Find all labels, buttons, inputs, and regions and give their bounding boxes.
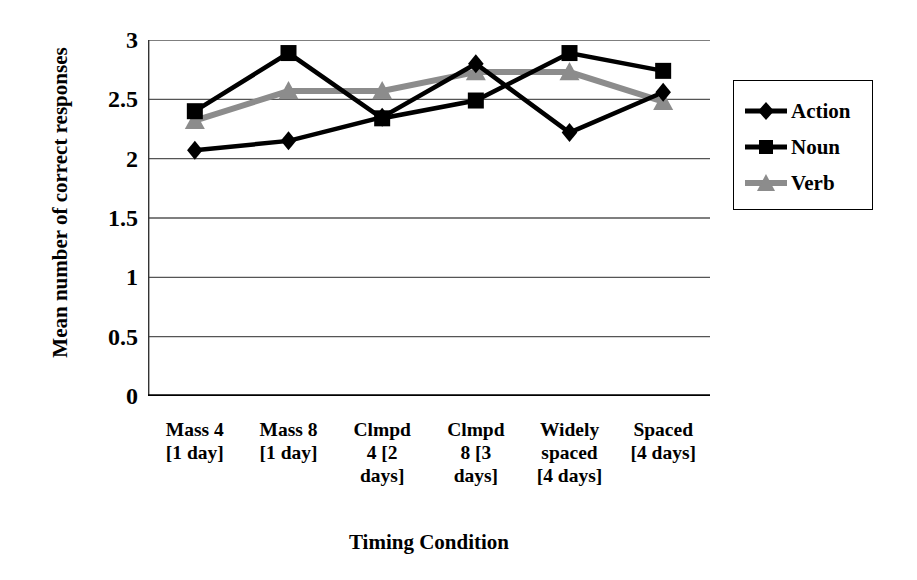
x-axis-tick-label-line: 8 [3 [431, 441, 521, 464]
x-axis-tick-label: Clmpd8 [3days] [429, 418, 523, 518]
diamond-marker-icon [281, 131, 297, 150]
y-axis-tick-label: 0.5 [68, 325, 138, 349]
square-marker-icon [187, 103, 203, 119]
diamond-marker-icon [187, 141, 203, 160]
x-axis-tick-label-line: Mass 4 [150, 418, 240, 441]
x-axis-tick-label-line: Mass 8 [244, 418, 334, 441]
square-marker-icon [468, 93, 484, 109]
legend-label: Verb [791, 171, 835, 196]
x-axis-tick-labels: Mass 4[1 day]Mass 8[1 day]Clmpd4 [2days]… [148, 418, 710, 518]
square-marker-icon [744, 136, 788, 158]
x-axis-title: Timing Condition [148, 530, 710, 555]
y-axis-tick-labels: 32.521.510.50 [62, 0, 138, 580]
x-axis-tick-label-line: 4 [2 [337, 441, 427, 464]
x-axis-tick-label-line: days] [431, 464, 521, 487]
diamond-marker-icon [744, 100, 788, 122]
y-axis-tick-label: 0 [68, 384, 138, 408]
series-line [195, 72, 663, 121]
x-axis-tick-label-line: Widely [525, 418, 615, 441]
x-axis-tick-label: Mass 8[1 day] [242, 418, 336, 518]
y-axis-tick-label: 3 [68, 28, 138, 52]
x-axis-tick-label-line: Clmpd [337, 418, 427, 441]
x-axis-tick-label-line: Spaced [618, 418, 708, 441]
square-marker-icon [562, 45, 578, 61]
x-axis-tick-label: Widelyspaced[4 days] [523, 418, 617, 518]
y-axis-tick-label: 1 [68, 265, 138, 289]
legend-item-noun[interactable]: Noun [744, 129, 872, 165]
chart-figure: Mean number of correct responses 32.521.… [0, 0, 917, 580]
legend-item-action[interactable]: Action [744, 93, 872, 129]
square-marker-icon [281, 45, 297, 61]
y-axis-tick-label: 1.5 [68, 206, 138, 230]
x-axis-tick-label-line: Clmpd [431, 418, 521, 441]
series-noun [187, 45, 671, 126]
legend-marker [758, 102, 774, 120]
chart-legend: ActionNounVerb [733, 80, 873, 210]
legend-label: Action [791, 99, 851, 124]
x-axis-tick-label: Spaced[4 days] [616, 418, 710, 518]
legend-item-verb[interactable]: Verb [744, 165, 872, 201]
x-axis-tick-label-line: [1 day] [150, 441, 240, 464]
series-line [195, 53, 663, 118]
y-axis-tick-label: 2 [68, 147, 138, 171]
x-axis-tick-label: Mass 4[1 day] [148, 418, 242, 518]
plot-area [148, 40, 710, 396]
x-axis-tick-label-line: [4 days] [525, 464, 615, 487]
x-axis-tick-label-line: days] [337, 464, 427, 487]
x-axis-tick-label-line: [1 day] [244, 441, 334, 464]
plot-svg [148, 40, 710, 396]
square-marker-icon [655, 63, 671, 79]
x-axis-tick-label-line: [4 days] [618, 441, 708, 464]
triangle-marker-icon [744, 172, 788, 194]
legend-marker [759, 140, 773, 154]
y-axis-tick-label: 2.5 [68, 87, 138, 111]
x-axis-tick-label: Clmpd4 [2days] [335, 418, 429, 518]
legend-label: Noun [791, 135, 840, 160]
x-axis-tick-label-line: spaced [525, 441, 615, 464]
